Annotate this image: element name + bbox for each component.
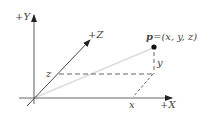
y-component-label: y [156, 57, 163, 68]
point-label-coords: =(x, y, z) [153, 31, 197, 42]
y-axis-label: +Y [15, 11, 31, 22]
z-axis [27, 40, 90, 106]
z-component-label: z [45, 68, 52, 79]
coordinate-diagram: +Y +Z +X p=(x, y, z) z y x [0, 0, 209, 121]
z-axis-label: +Z [88, 29, 104, 40]
point-label-name: p [146, 31, 153, 42]
x-axis-label: +X [160, 99, 176, 110]
point-label: p=(x, y, z) [146, 31, 197, 42]
x-component-label: x [129, 99, 135, 110]
position-vector [34, 48, 153, 98]
x-projection-dashed [133, 74, 153, 97]
point-p [151, 44, 156, 49]
